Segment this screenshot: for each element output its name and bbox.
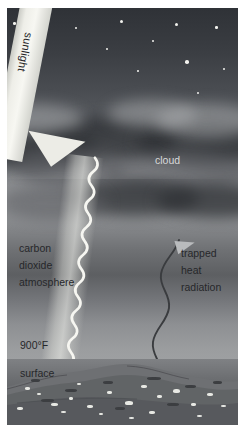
- surface-label: surface: [20, 366, 54, 381]
- surface-dark-speck: [213, 381, 222, 384]
- star-icon: [120, 20, 123, 23]
- surface-speck: [207, 393, 213, 396]
- star-icon: [223, 68, 225, 70]
- surface-dark-speck: [167, 403, 179, 406]
- surface-dark-speck: [65, 389, 77, 392]
- surface-dark-speck: [115, 407, 125, 410]
- star-icon: [175, 23, 178, 26]
- trapped-heat-label-line3: radiation: [181, 280, 221, 295]
- surface-speck: [129, 417, 134, 419]
- star-icon: [152, 40, 154, 42]
- surface-speck: [87, 405, 93, 408]
- surface-speck: [77, 383, 81, 385]
- star-icon: [185, 60, 189, 64]
- atmosphere-label-line1: carbon: [19, 241, 51, 256]
- surface-speck: [37, 393, 41, 395]
- surface-dark-speck: [185, 385, 196, 388]
- surface-speck: [17, 407, 23, 410]
- temperature-label: 900°F: [20, 338, 48, 353]
- greenhouse-effect-diagram: sunlight cloud carbon dioxide atmosphere…: [7, 8, 238, 425]
- surface-speck: [141, 385, 147, 388]
- surface-speck: [99, 413, 103, 415]
- surface-speck: [25, 387, 30, 390]
- star-icon: [106, 48, 108, 50]
- surface-speck: [107, 391, 112, 394]
- surface-speck: [51, 403, 58, 406]
- trapped-heat-label-line1: trapped: [181, 246, 217, 261]
- surface-speck: [61, 411, 66, 413]
- surface-speck: [149, 411, 155, 414]
- surface-speck: [173, 389, 180, 393]
- surface-speck: [157, 395, 162, 398]
- trapped-heat-label-line2: heat: [181, 263, 201, 278]
- star-icon: [75, 27, 77, 29]
- surface-speck: [69, 397, 73, 400]
- surface-speck: [191, 403, 196, 406]
- star-icon: [215, 26, 218, 29]
- star-icon: [197, 92, 199, 94]
- atmosphere-label-line3: atmosphere: [19, 275, 74, 290]
- surface-dark-speck: [103, 381, 113, 384]
- surface-speck: [221, 405, 226, 407]
- atmosphere-label-line2: dioxide: [19, 258, 52, 273]
- cloud-label: cloud: [155, 153, 180, 168]
- star-icon: [137, 70, 139, 72]
- surface-speck: [197, 415, 202, 417]
- surface-dark-speck: [41, 399, 54, 402]
- surface-speck: [125, 401, 133, 405]
- surface-dark-speck: [147, 377, 161, 380]
